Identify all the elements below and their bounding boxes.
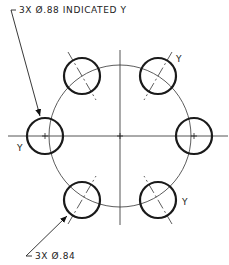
hole-label-upper-right: Y [175,54,182,64]
leader-bottom [26,216,67,256]
radial-centerline-lr [144,176,172,224]
callout-top-text: 3X Ø.88 INDICATED Y [19,5,127,15]
technical-drawing: 3X Ø.88 INDICATED Y 3X Ø.84 Y Y Y [0,0,229,265]
hole-label-left: Y [16,143,23,153]
radial-centerline-ul [68,52,96,100]
leader-top [11,10,40,116]
radial-centerline-ur [144,52,172,100]
callout-bottom-text: 3X Ø.84 [35,251,75,261]
radial-centerline-ll [68,176,96,224]
hole-label-lower-right: Y [181,197,188,207]
